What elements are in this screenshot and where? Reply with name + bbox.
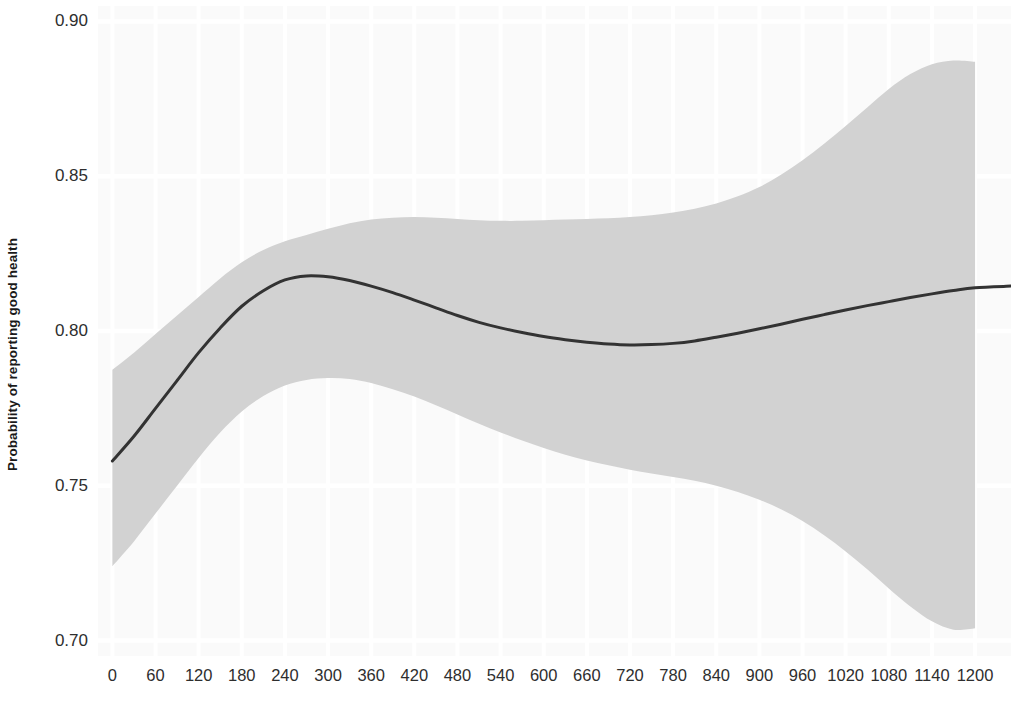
x-axis-tick-label: 120 bbox=[185, 666, 213, 685]
y-axis-tick-label: 0.75 bbox=[55, 476, 88, 496]
plot-svg bbox=[98, 6, 1011, 656]
y-axis-tick-label: 0.70 bbox=[55, 631, 88, 651]
x-axis-tick-label: 900 bbox=[746, 666, 774, 685]
x-axis-tick-label: 1080 bbox=[870, 666, 907, 685]
x-axis-tick-label: 420 bbox=[401, 666, 429, 685]
x-axis-tick-label: 1200 bbox=[957, 666, 994, 685]
y-axis-tick-labels: 0.700.750.800.850.90 bbox=[0, 0, 98, 709]
x-axis-tick-label: 960 bbox=[789, 666, 817, 685]
x-axis-tick-label: 0 bbox=[108, 666, 117, 685]
x-axis-tick-label: 720 bbox=[616, 666, 644, 685]
y-axis-tick-label: 0.90 bbox=[55, 11, 88, 31]
x-axis-tick-label: 660 bbox=[573, 666, 601, 685]
x-axis-tick-label: 600 bbox=[530, 666, 558, 685]
x-axis-tick-label: 180 bbox=[228, 666, 256, 685]
x-axis-tick-label: 1020 bbox=[827, 666, 864, 685]
x-axis-tick-label: 300 bbox=[314, 666, 342, 685]
x-axis-tick-label: 840 bbox=[702, 666, 730, 685]
x-axis-tick-label: 240 bbox=[271, 666, 299, 685]
x-axis-tick-label: 540 bbox=[487, 666, 515, 685]
x-axis-tick-label: 480 bbox=[444, 666, 472, 685]
plot-panel bbox=[98, 6, 1011, 656]
x-axis-tick-label: 780 bbox=[659, 666, 687, 685]
chart-figure: Probability of reporting good health 0.7… bbox=[0, 0, 1023, 709]
x-axis-tick-label: 360 bbox=[357, 666, 385, 685]
x-axis-tick-label: 1140 bbox=[914, 666, 949, 685]
y-axis-tick-label: 0.80 bbox=[55, 321, 88, 341]
x-axis-tick-label: 60 bbox=[146, 666, 164, 685]
y-axis-tick-label: 0.85 bbox=[55, 166, 88, 186]
x-axis-tick-labels: 0601201802403003604204805406006607207808… bbox=[0, 660, 1023, 700]
